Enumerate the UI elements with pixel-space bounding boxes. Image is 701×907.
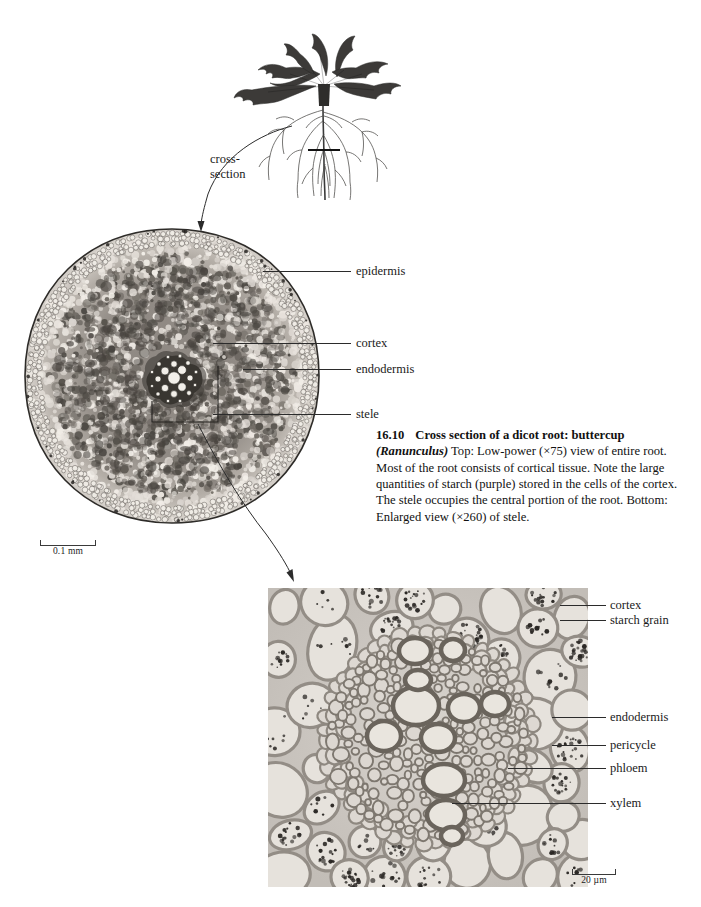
label-endodermis-2: endodermis [610, 710, 668, 725]
label-pericycle: pericycle [610, 738, 656, 753]
figure-16-10: cross- section [0, 0, 701, 907]
caption-title: Cross section of a dicot root: buttercup [415, 428, 624, 442]
scale-bar-top: 0.1 mm [40, 540, 96, 556]
leader-endodermis-2 [552, 717, 606, 718]
leader-endodermis [243, 369, 351, 370]
label-cortex-2: cortex [610, 598, 641, 613]
leader-epidermis [263, 271, 351, 272]
leader-pericycle [552, 745, 606, 746]
stele-enlarged-micrograph [268, 588, 588, 887]
scale-bar-bottom: 20 µm [572, 869, 616, 885]
leader-phloem [508, 768, 606, 769]
label-endodermis: endodermis [356, 362, 414, 377]
label-phloem: phloem [610, 761, 648, 776]
leader-starch-grain [560, 620, 606, 621]
label-xylem: xylem [610, 796, 641, 811]
label-epidermis: epidermis [356, 264, 405, 279]
arrow-stele-to-zoom [190, 420, 320, 595]
scale-bar-top-text: 0.1 mm [40, 546, 96, 556]
label-starch-grain: starch grain [610, 613, 669, 628]
scale-bar-bottom-text: 20 µm [572, 875, 616, 885]
caption-number: 16.10 [376, 428, 404, 442]
label-stele: stele [356, 407, 379, 422]
figure-caption: 16.10Cross section of a dicot root: butt… [376, 427, 688, 525]
leader-xylem [452, 803, 606, 804]
arrow-plant-to-section [140, 120, 300, 235]
leader-cortex-2 [560, 605, 606, 606]
caption-species: (Ranunculus) [376, 444, 448, 458]
label-cortex: cortex [356, 336, 387, 351]
leader-cortex [213, 343, 351, 344]
leader-stele [213, 414, 351, 415]
